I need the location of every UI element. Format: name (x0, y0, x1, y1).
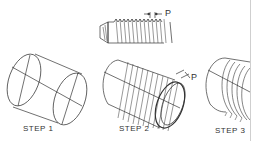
page-edge (250, 0, 260, 141)
step3-label: STEP 3 (215, 126, 245, 135)
step3-threaded-cylinder (206, 58, 250, 122)
thread-drawing (0, 0, 260, 141)
step2-label: STEP 2 (119, 124, 149, 133)
step2-cylinder (103, 60, 190, 132)
threaded-rod-side-view (100, 12, 172, 43)
step1-label: STEP 1 (23, 124, 53, 133)
pitch-label-step2: P (191, 72, 197, 82)
step1-cylinder (1, 49, 94, 129)
pitch-label-top: P (165, 8, 171, 18)
